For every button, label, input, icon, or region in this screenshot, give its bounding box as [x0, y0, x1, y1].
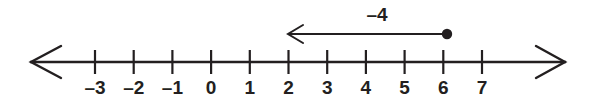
number-line-diagram: –3 –2 –1 0 1 2 3 4 5 6 7 –4 — [0, 0, 595, 106]
start-point-dot — [442, 29, 452, 39]
tick-label-0: 0 — [206, 77, 217, 98]
tick-label-neg2: –2 — [123, 77, 144, 98]
number-line-canvas: –3 –2 –1 0 1 2 3 4 5 6 7 –4 — [0, 0, 595, 106]
tick-label-neg1: –1 — [162, 77, 184, 98]
tick-label-3: 3 — [322, 77, 333, 98]
tick-label-2: 2 — [283, 77, 294, 98]
tick-label-1: 1 — [245, 77, 256, 98]
jump-arrow-group — [288, 25, 452, 43]
tick-label-4: 4 — [361, 77, 372, 98]
tick-labels-group: –3 –2 –1 0 1 2 3 4 5 6 7 — [84, 77, 487, 98]
jump-value-label: –4 — [366, 4, 388, 25]
tick-label-6: 6 — [438, 77, 449, 98]
tick-label-neg3: –3 — [84, 77, 105, 98]
tick-label-5: 5 — [399, 77, 410, 98]
tick-label-7: 7 — [477, 77, 488, 98]
